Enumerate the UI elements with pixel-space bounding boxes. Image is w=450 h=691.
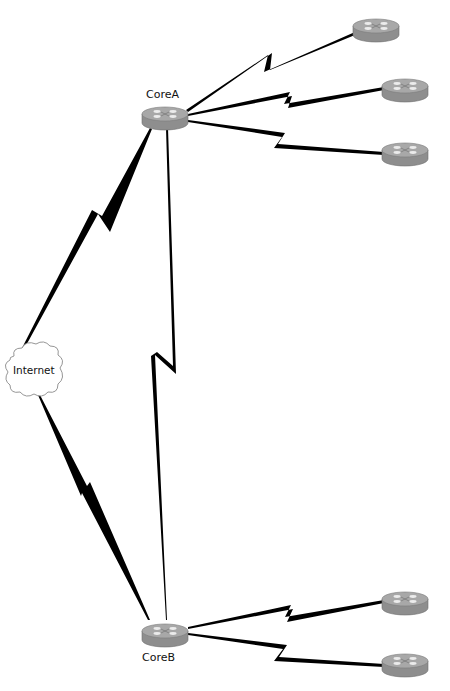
link-internet-coreb xyxy=(38,395,150,620)
router-icon xyxy=(382,79,428,102)
network-diagram xyxy=(0,0,450,691)
router-corea[interactable] xyxy=(142,107,188,130)
link-corea-r3 xyxy=(188,120,384,155)
router-icon xyxy=(142,624,188,647)
router-icon xyxy=(382,592,428,615)
router-r1[interactable] xyxy=(353,19,399,42)
router-r5[interactable] xyxy=(382,654,428,677)
links xyxy=(21,32,384,667)
router-coreb[interactable] xyxy=(142,624,188,647)
label-internet: Internet xyxy=(13,364,55,376)
router-r3[interactable] xyxy=(382,143,428,166)
router-icon xyxy=(142,107,188,130)
router-r4[interactable] xyxy=(382,592,428,615)
link-corea-coreb xyxy=(151,128,176,620)
router-icon xyxy=(382,654,428,677)
link-corea-internet xyxy=(21,128,152,351)
link-coreb-r4 xyxy=(188,600,384,629)
link-coreb-r5 xyxy=(188,633,384,667)
router-icon xyxy=(382,143,428,166)
label-coreb: CoreB xyxy=(142,651,175,664)
label-corea: CoreA xyxy=(146,88,179,101)
router-r2[interactable] xyxy=(382,79,428,102)
router-icon xyxy=(353,19,399,42)
